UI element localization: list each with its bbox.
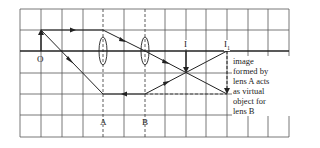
annotation-note: image formed by lens A acts as virtual o…	[232, 56, 292, 116]
label-image-1-sub: 1	[227, 45, 230, 51]
ray-2	[41, 30, 227, 94]
note-line: object for	[233, 96, 291, 106]
label-lens-b: B	[142, 118, 148, 127]
label-object: O	[37, 55, 44, 64]
note-line: lens B	[233, 106, 291, 116]
virtual-image-arrow	[224, 51, 230, 94]
note-line: as virtual	[233, 86, 291, 96]
ray-2-arrow-3	[163, 81, 170, 86]
ray-1-arrow-1	[70, 28, 76, 33]
ray-1-arrow-3	[162, 59, 170, 64]
label-lens-a: A	[100, 118, 107, 127]
label-image: I	[184, 40, 187, 49]
note-line: lens A acts	[233, 76, 291, 86]
label-image-1: I1	[224, 40, 230, 51]
ray-1	[41, 30, 227, 94]
note-line: formed by	[233, 66, 291, 76]
image-arrow	[183, 51, 189, 73]
note-line: image	[233, 56, 291, 66]
ray-1-arrow-2	[119, 37, 126, 42]
